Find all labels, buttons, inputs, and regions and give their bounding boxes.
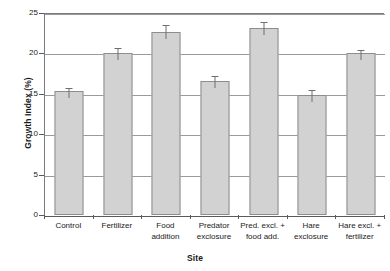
bar-group [45, 14, 94, 215]
error-bar [69, 88, 70, 98]
y-tick-label: 15 [12, 89, 38, 98]
bar-group [288, 14, 337, 215]
x-tick-mark [141, 215, 142, 219]
error-bar-cap [309, 90, 316, 91]
y-tick-label: 20 [12, 48, 38, 57]
x-tick-mark [335, 215, 336, 219]
error-bar [117, 48, 118, 60]
x-category-label-line: fertilizer [331, 232, 388, 243]
plot-area [44, 13, 384, 215]
error-bar-cap [357, 50, 364, 51]
gridline-0 [45, 216, 385, 217]
bar [55, 91, 84, 215]
error-bar [263, 22, 264, 34]
y-axis-title: Growth Index (%) [23, 38, 33, 188]
x-tick-mark [44, 215, 45, 219]
x-tick-mark [287, 215, 288, 219]
x-category-label: Hare excl. +fertilizer [331, 221, 388, 242]
bar [346, 53, 375, 215]
growth-index-bar-chart: Growth Index (%) 0510152025 ControlFerti… [0, 0, 390, 271]
error-bar [166, 25, 167, 40]
bar [103, 53, 132, 215]
error-bar [360, 50, 361, 60]
x-tick-mark [384, 215, 385, 219]
bar [152, 32, 181, 215]
y-tick-label: 5 [12, 170, 38, 179]
bar-group [191, 14, 240, 215]
error-bar [214, 76, 215, 88]
x-tick-mark [238, 215, 239, 219]
error-bar-cap [211, 76, 218, 77]
bar [298, 95, 327, 215]
x-tick-mark [190, 215, 191, 219]
bar-group [336, 14, 385, 215]
x-category-label-line: Hare excl. + [331, 221, 388, 232]
bar [249, 28, 278, 215]
x-axis-title: Site [0, 253, 390, 263]
error-bar [312, 90, 313, 102]
bar [200, 81, 229, 215]
bar-group [142, 14, 191, 215]
bar-group [94, 14, 143, 215]
y-tick-label: 0 [12, 210, 38, 219]
y-tick-label: 10 [12, 129, 38, 138]
error-bar-cap [114, 48, 121, 49]
error-bar-cap [163, 25, 170, 26]
error-bar-cap [66, 88, 73, 89]
x-tick-mark [93, 215, 94, 219]
error-bar-cap [260, 22, 267, 23]
y-tick-label: 25 [12, 8, 38, 17]
bar-group [239, 14, 288, 215]
